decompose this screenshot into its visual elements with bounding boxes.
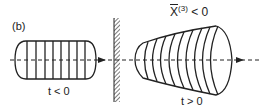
chi-order: (3) (178, 4, 188, 13)
incident-time-label: t < 0 (48, 85, 70, 97)
chi-symbol: X (170, 5, 178, 19)
transmitted-pulse (135, 26, 232, 95)
incident-arrow-icon (98, 57, 106, 63)
medium-interface-wall (114, 18, 120, 102)
nonlinearity-label: X(3) < 0 (170, 4, 208, 19)
panel-label: (b) (12, 20, 25, 32)
transmitted-time-label: t > 0 (181, 95, 203, 107)
diagram-graphics (0, 0, 266, 112)
transmitted-arrow-icon (236, 57, 244, 63)
pulse-reflection-diagram: (b) t < 0 t > 0 X(3) < 0 (0, 0, 266, 112)
chi-relation: < 0 (191, 5, 208, 19)
